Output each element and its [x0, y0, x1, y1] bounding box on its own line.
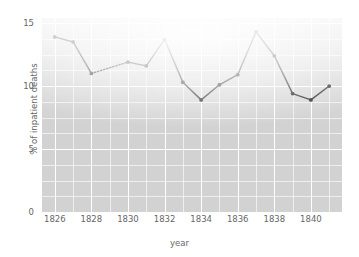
plot-area — [42, 18, 342, 212]
x-tick-label: 1830 — [108, 215, 148, 224]
data-point — [89, 72, 93, 76]
data-point — [254, 30, 258, 34]
series-segment-dotted — [91, 62, 128, 73]
series-segment — [311, 86, 329, 100]
series-segment — [201, 85, 219, 100]
x-tick-label: 1838 — [254, 215, 294, 224]
data-point — [327, 84, 331, 88]
data-series-layer — [42, 18, 342, 212]
series-segment — [293, 94, 311, 100]
series-segment — [219, 75, 237, 85]
series-segment — [128, 62, 146, 66]
gridline-major — [42, 212, 342, 213]
y-axis-label: % of inpatient deaths — [29, 39, 39, 179]
data-point — [71, 40, 75, 44]
x-tick-label: 1836 — [218, 215, 258, 224]
series-segment — [73, 42, 91, 73]
data-point — [236, 73, 240, 77]
data-point — [218, 83, 222, 87]
data-point — [163, 38, 167, 42]
x-tick-label: 1828 — [71, 215, 111, 224]
data-point — [144, 64, 148, 68]
series-segment — [55, 37, 73, 42]
series-segment — [146, 39, 164, 65]
x-tick-label: 1832 — [145, 215, 185, 224]
x-tick-label: 1840 — [291, 215, 331, 224]
series-segment — [165, 39, 183, 82]
data-point — [199, 98, 203, 102]
data-point — [181, 80, 185, 84]
data-point — [272, 54, 276, 58]
series-segment — [183, 82, 201, 100]
data-point — [53, 35, 57, 39]
series-segment — [238, 32, 256, 75]
x-tick-label: 1834 — [181, 215, 221, 224]
y-axis-label-wrap: % of inpatient deaths — [16, 0, 30, 230]
data-point — [291, 92, 295, 96]
data-point — [126, 60, 130, 64]
series-segment — [256, 32, 274, 56]
series-segment — [274, 56, 292, 94]
data-point — [309, 98, 313, 102]
x-tick-label: 1826 — [35, 215, 75, 224]
x-axis-label: year — [0, 238, 359, 248]
chart-container: 051015 18261828183018321834183618381840 … — [0, 0, 359, 257]
